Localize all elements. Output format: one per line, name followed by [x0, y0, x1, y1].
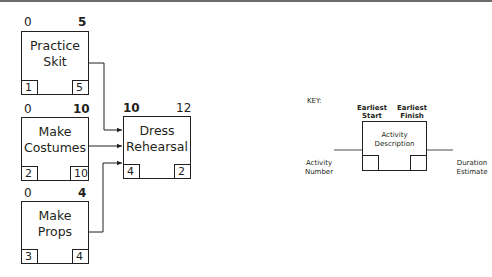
earliest-finish: 5 [78, 16, 86, 28]
key-activity-description: Activity Description [363, 131, 426, 149]
activity-number: 4 [123, 164, 140, 179]
activity-node: Make Costumes 2 10 [21, 117, 89, 181]
description-line: Dress [124, 123, 190, 139]
earliest-start: 10 [123, 102, 140, 114]
key-label-line: Duration [454, 159, 490, 168]
key-title: KEY: [307, 97, 322, 105]
description-line: Make [22, 208, 88, 224]
key-label-line: Activity [302, 159, 336, 168]
earliest-start: 0 [24, 103, 32, 115]
key-earliest-finish: Earliest Finish [395, 104, 429, 120]
duration-estimate: 5 [72, 80, 89, 95]
key-duration-box [410, 155, 427, 171]
key-earliest-start: Earliest Start [355, 104, 389, 120]
earliest-finish: 12 [176, 102, 191, 114]
activity-number: 1 [21, 80, 38, 95]
activity-number: 3 [21, 249, 38, 264]
key-label-line: Earliest [355, 104, 389, 112]
key-label-line: Finish [395, 112, 429, 120]
activity-description: Make Costumes [22, 124, 88, 156]
activity-node: Dress Rehearsal 4 2 [123, 116, 191, 179]
duration-estimate: 4 [72, 249, 89, 264]
earliest-finish: 4 [78, 187, 86, 199]
key-label-line: Earliest [395, 104, 429, 112]
earliest-start: 0 [24, 16, 32, 28]
duration-estimate: 10 [70, 166, 89, 181]
earliest-start: 0 [24, 187, 32, 199]
key-activity-number-box [362, 155, 379, 171]
key-label-line: Start [355, 112, 389, 120]
key-label-line: Number [302, 168, 336, 177]
description-line: Costumes [22, 140, 88, 156]
activity-description: Make Props [22, 208, 88, 240]
description-line: Make [22, 124, 88, 140]
key-activity-node: Activity Description [362, 121, 427, 171]
duration-estimate: 2 [174, 164, 191, 179]
activity-description: Dress Rehearsal [124, 123, 190, 155]
key-label-line: Estimate [454, 168, 490, 177]
key-label-line: Description [363, 140, 426, 149]
description-line: Practice [22, 38, 88, 54]
activity-node: Practice Skit 1 5 [21, 31, 89, 95]
key-label-line: Activity [363, 131, 426, 140]
description-line: Props [22, 224, 88, 240]
activity-node: Make Props 3 4 [21, 201, 89, 264]
key-activity-number-label: Activity Number [302, 159, 336, 177]
activity-number: 2 [21, 166, 38, 181]
earliest-finish: 10 [73, 103, 90, 115]
description-line: Rehearsal [124, 139, 190, 155]
key-duration-label: Duration Estimate [454, 159, 490, 177]
activity-description: Practice Skit [22, 38, 88, 70]
description-line: Skit [22, 54, 88, 70]
